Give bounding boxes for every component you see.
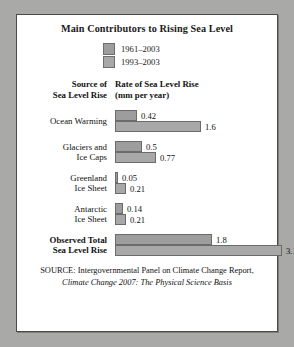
bar-value-1993-2003: 0.77 (160, 153, 175, 163)
bar-line-1961-2003: 0.14 (115, 203, 277, 214)
legend-swatch-1993-2003 (103, 56, 115, 68)
bar-1961-2003 (115, 172, 118, 183)
row-label-line2: Sea Level Rise (23, 245, 107, 256)
legend-label-1961-2003: 1961–2003 (121, 44, 160, 54)
bar-line-1993-2003: 0.77 (115, 152, 277, 163)
bar-1993-2003 (115, 152, 156, 163)
chart-row-glaciers-ice-caps: Glaciers and Ice Caps 0.5 0.77 (17, 141, 277, 163)
row-label: Greenland Ice Sheet (23, 173, 107, 194)
row-label-line2: Ice Sheet (23, 183, 107, 194)
row-label-line1: Ocean Warming (23, 116, 107, 127)
source-caption: SOURCE: Intergovernmental Panel on Clima… (17, 265, 277, 288)
bar-value-1993-2003: 3.1 (286, 246, 294, 256)
legend-swatch-1961-2003 (103, 43, 115, 55)
row-label-line1: Antarctic (23, 204, 107, 215)
row-label: Ocean Warming (23, 116, 107, 127)
bar-line-1961-2003: 0.42 (115, 110, 277, 121)
column-header-rate-line1: Rate of Sea Level Rise (115, 79, 199, 90)
bar-line-1993-2003: 0.21 (115, 214, 277, 225)
column-header-source-line1: Source of (23, 79, 107, 90)
row-label: Antarctic Ice Sheet (23, 204, 107, 225)
source-line2: Climate Change 2007: The Physical Scienc… (27, 277, 267, 289)
bar-line-1961-2003: 1.8 (115, 234, 294, 245)
row-label-line1: Greenland (23, 173, 107, 184)
column-headers: Source of Sea Level Rise Rate of Sea Lev… (17, 79, 277, 101)
chart-legend: 1961–2003 1993–2003 (17, 42, 277, 68)
row-label-line2: Ice Sheet (23, 214, 107, 225)
row-label-line2: Ice Caps (23, 152, 107, 163)
chart-rows: Ocean Warming 0.42 1.6 Glaciers and Ice … (17, 110, 277, 256)
row-label: Observed Total Sea Level Rise (23, 235, 107, 256)
bar-line-1961-2003: 0.5 (115, 141, 277, 152)
source-line1: SOURCE: Intergovernmental Panel on Clima… (27, 265, 267, 277)
bar-value-1961-2003: 0.14 (127, 204, 142, 214)
legend-label-1993-2003: 1993–2003 (121, 57, 160, 67)
bar-1961-2003 (115, 110, 137, 121)
bar-line-1993-2003: 3.1 (115, 245, 294, 256)
bar-1993-2003 (115, 183, 126, 194)
bar-1961-2003 (115, 141, 142, 152)
bar-line-1961-2003: 0.05 (115, 172, 277, 183)
bar-1961-2003 (115, 203, 123, 214)
row-label-line1: Observed Total (23, 235, 107, 246)
chart-row-greenland-ice-sheet: Greenland Ice Sheet 0.05 0.21 (17, 172, 277, 194)
bar-line-1993-2003: 1.6 (115, 121, 277, 132)
bar-line-1993-2003: 0.21 (115, 183, 277, 194)
bar-value-1993-2003: 0.21 (130, 215, 145, 225)
bar-1993-2003 (115, 121, 201, 132)
column-header-source: Source of Sea Level Rise (23, 79, 107, 101)
row-bars: 0.14 0.21 (115, 203, 277, 225)
bar-value-1961-2003: 0.42 (141, 111, 156, 121)
row-label: Glaciers and Ice Caps (23, 142, 107, 163)
row-bars: 0.05 0.21 (115, 172, 277, 194)
bar-value-1961-2003: 0.05 (122, 173, 137, 183)
row-bars: 0.5 0.77 (115, 141, 277, 163)
column-header-source-line2: Sea Level Rise (23, 90, 107, 101)
bar-value-1993-2003: 0.21 (130, 184, 145, 194)
chart-row-observed-total: Observed Total Sea Level Rise 1.8 3.1 (17, 234, 277, 256)
column-header-rate: Rate of Sea Level Rise (mm per year) (115, 79, 199, 101)
legend-item: 1961–2003 (103, 42, 277, 55)
chart-title: Main Contributors to Rising Sea Level (17, 23, 277, 34)
bar-1961-2003 (115, 234, 212, 245)
chart-row-antarctic-ice-sheet: Antarctic Ice Sheet 0.14 0.21 (17, 203, 277, 225)
row-bars: 0.42 1.6 (115, 110, 277, 132)
column-header-rate-line2: (mm per year) (115, 90, 199, 101)
bar-value-1961-2003: 1.8 (216, 235, 227, 245)
legend-item: 1993–2003 (103, 55, 277, 68)
row-bars: 1.8 3.1 (115, 234, 294, 256)
bar-1993-2003 (115, 214, 126, 225)
row-label-line1: Glaciers and (23, 142, 107, 153)
bar-1993-2003 (115, 245, 282, 256)
bar-value-1993-2003: 1.6 (205, 122, 216, 132)
chart-panel: Main Contributors to Rising Sea Level 19… (16, 14, 278, 332)
bar-value-1961-2003: 0.5 (146, 142, 157, 152)
chart-row-ocean-warming: Ocean Warming 0.42 1.6 (17, 110, 277, 132)
